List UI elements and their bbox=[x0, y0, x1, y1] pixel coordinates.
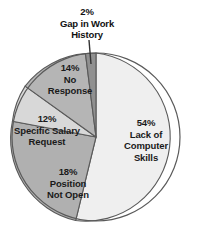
pie-label-gap-in-work-history: 2% Gap in Work History bbox=[25, 6, 149, 41]
pie-chart: 54% Lack of Computer Skills 18% Position… bbox=[0, 0, 197, 243]
